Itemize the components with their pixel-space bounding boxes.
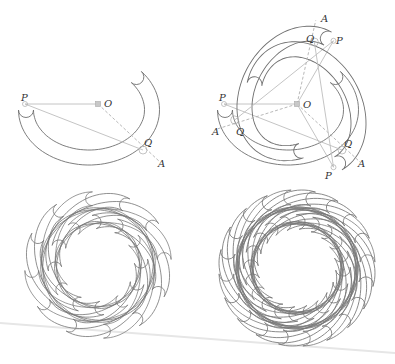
panel-single-band <box>19 72 161 166</box>
label-p: P <box>324 170 332 181</box>
scan-artifact-line <box>0 323 395 353</box>
arc-band <box>222 175 352 335</box>
arc-band <box>230 193 390 323</box>
labels-three-bands: O P Q A A Q P Q A P <box>211 13 365 181</box>
segment-pq <box>314 42 333 167</box>
label-a: A <box>157 158 165 169</box>
panel-rosette-20 <box>199 170 395 364</box>
arc-band <box>238 20 389 189</box>
arc-band <box>213 5 364 174</box>
label-a: A <box>320 13 328 24</box>
point-o <box>96 102 101 107</box>
point-o <box>295 102 300 107</box>
label-o: O <box>303 99 311 110</box>
label-q: Q <box>236 126 244 137</box>
label-a: A <box>211 126 219 137</box>
label-o: O <box>104 98 112 109</box>
label-p: P <box>218 92 226 103</box>
segment-pq <box>25 104 143 150</box>
arc-band <box>19 72 160 166</box>
label-q: Q <box>344 138 352 149</box>
segment-pq <box>235 41 334 120</box>
ray-oa <box>98 104 160 162</box>
label-p: P <box>20 92 28 103</box>
label-p: P <box>335 35 343 46</box>
label-a: A <box>357 158 365 169</box>
geometric-construction-figure: P O Q A O P Q A A Q P Q A P <box>0 0 395 364</box>
label-q: Q <box>306 33 314 44</box>
arc-band <box>243 201 373 361</box>
panel-rosette-12 <box>7 174 190 357</box>
label-q: Q <box>144 137 152 148</box>
